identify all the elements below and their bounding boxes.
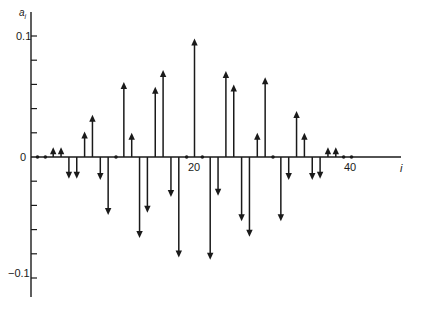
x-axis-label: i	[400, 162, 403, 174]
y-tick-label-neg: −0.1	[8, 267, 30, 279]
zero-point	[36, 155, 40, 159]
arrow-down-icon	[97, 173, 103, 180]
arrow-up-icon	[293, 111, 299, 118]
zero-point	[44, 155, 48, 159]
arrow-up-icon	[50, 147, 56, 154]
arrow-down-icon	[74, 172, 80, 179]
arrow-up-icon	[89, 115, 95, 122]
zero-point	[114, 155, 118, 159]
arrow-down-icon	[176, 250, 182, 257]
arrow-up-icon	[191, 38, 197, 45]
arrow-down-icon	[215, 189, 221, 196]
arrow-up-icon	[254, 133, 260, 140]
arrow-up-icon	[325, 147, 331, 154]
arrow-down-icon	[207, 253, 213, 260]
x-tick-label-20: 20	[188, 161, 200, 173]
arrow-up-icon	[231, 84, 237, 91]
arrow-up-icon	[301, 133, 307, 140]
arrow-down-icon	[66, 172, 72, 179]
arrow-down-icon	[238, 214, 244, 221]
zero-point	[350, 155, 354, 159]
arrow-up-icon	[58, 147, 64, 154]
zero-point	[342, 155, 346, 159]
arrow-down-icon	[105, 208, 111, 215]
y-tick-label-zero: 0	[20, 151, 26, 163]
arrow-up-icon	[81, 132, 87, 139]
axes	[31, 12, 401, 297]
arrow-up-icon	[223, 71, 229, 78]
arrow-down-icon	[278, 214, 284, 221]
arrow-up-icon	[152, 87, 158, 94]
zero-point	[185, 155, 189, 159]
arrow-up-icon	[262, 77, 268, 84]
zero-point	[201, 155, 205, 159]
arrow-down-icon	[309, 173, 315, 180]
arrow-up-icon	[333, 147, 339, 154]
y-tick-label-pos: 0.1	[16, 30, 31, 42]
arrow-up-icon	[129, 133, 135, 140]
arrow-up-icon	[160, 70, 166, 77]
arrow-up-icon	[121, 82, 127, 89]
arrow-down-icon	[136, 231, 142, 238]
arrow-down-icon	[317, 172, 323, 179]
zero-point	[271, 155, 275, 159]
stem-series	[36, 38, 354, 259]
arrow-down-icon	[144, 206, 150, 213]
stem-plot: ai 0.1 0 −0.1 20 40 i	[0, 0, 422, 315]
y-axis-label: ai	[19, 7, 27, 20]
x-tick-label-40: 40	[344, 161, 356, 173]
arrow-down-icon	[286, 173, 292, 180]
arrow-down-icon	[246, 230, 252, 237]
arrow-down-icon	[168, 190, 174, 197]
